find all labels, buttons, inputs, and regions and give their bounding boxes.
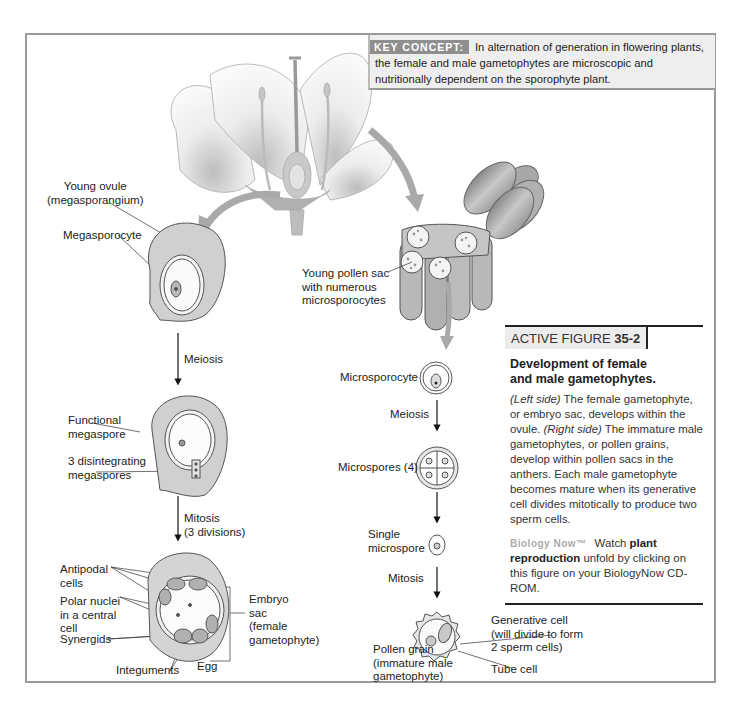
single-microspore-illustration	[429, 535, 445, 555]
label-microsporocyte: Microsporocyte	[340, 371, 418, 385]
active-figure-caption: ACTIVE FIGURE 35-2 Development of female…	[505, 325, 703, 605]
label-pollen-grain: Pollen grain(immature malegametophyte)	[373, 643, 453, 684]
caption-body: (Left side) The female gametophyte, or e…	[510, 392, 703, 527]
label-antipodal-cells: Antipodalcells	[60, 563, 108, 590]
microsporocyte-illustration	[420, 362, 452, 394]
label-young-pollen-sac: Young pollen sacwith numerousmicrosporoc…	[302, 267, 389, 308]
label-embryo-sac: Embryosac(femalegametophyte)	[249, 593, 319, 647]
label-megasporocyte: Megasporocyte	[63, 229, 142, 243]
label-tube-cell: Tube cell	[491, 663, 537, 677]
label-integuments: Integuments	[116, 664, 179, 678]
active-figure-header: ACTIVE FIGURE 35-2	[505, 327, 648, 349]
label-meiosis-female: Meiosis	[184, 353, 223, 367]
embryo-sac-illustration	[148, 553, 229, 661]
biologynow-note[interactable]: Biology Now™Watch plant reproduction unf…	[510, 536, 703, 596]
label-egg: Egg	[197, 660, 217, 674]
label-meiosis-male: Meiosis	[390, 408, 429, 422]
label-synergids: Synergids	[60, 633, 111, 647]
microspores-illustration	[416, 447, 458, 489]
label-polar-nuclei: Polar nucleiin a centralcell	[60, 595, 120, 636]
key-concept-label: KEY CONCEPT:	[370, 40, 469, 54]
caption-title: Development of femaleand male gametophyt…	[510, 357, 703, 387]
biologynow-logo-icon: Biology Now™	[510, 538, 587, 549]
flower-illustration	[171, 53, 393, 235]
label-microspores: Microspores (4)	[338, 461, 418, 475]
young-ovule-illustration	[148, 223, 225, 321]
pollen-sac-illustration	[400, 224, 492, 330]
label-functional-megaspore: Functionalmegaspore	[68, 414, 126, 441]
label-generative-cell: Generative cell(will divide to form2 spe…	[491, 614, 583, 655]
key-concept-box: KEY CONCEPT:In alternation of generation…	[368, 35, 715, 90]
label-mitosis-male: Mitosis	[388, 572, 424, 586]
label-young-ovule: Young ovule(megasporangium)	[47, 180, 144, 207]
label-mitosis-female: Mitosis(3 divisions)	[184, 512, 245, 539]
functional-megaspore-illustration	[152, 396, 227, 497]
label-single-microspore: Singlemicrospore	[368, 528, 425, 555]
label-disintegrating-megaspores: 3 disintegratingmegaspores	[68, 455, 146, 482]
